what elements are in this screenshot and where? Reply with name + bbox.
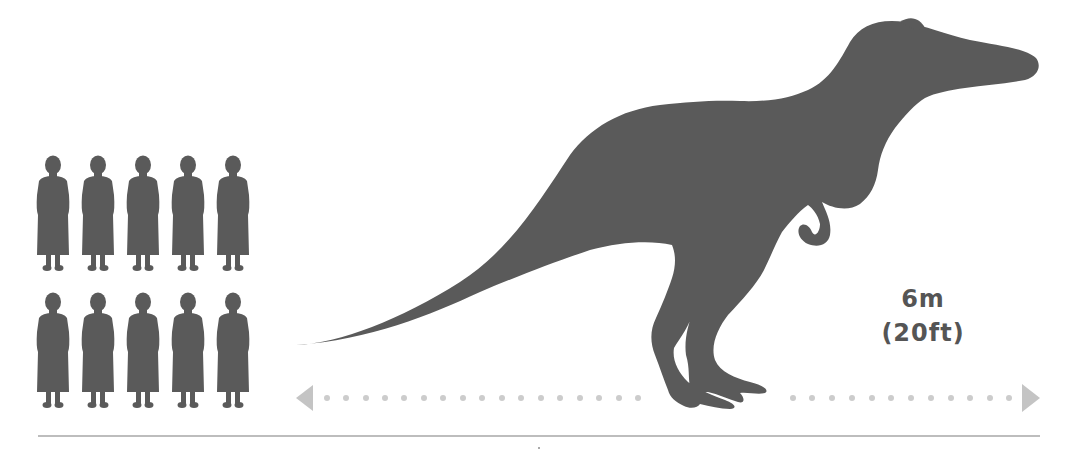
length-label: 6m (20ft): [868, 282, 978, 350]
length-imperial: (20ft): [868, 316, 978, 350]
size-comparison-figure: 6m (20ft): [0, 0, 1089, 451]
dotted-line-right: [790, 395, 1012, 401]
ground-tick-mark: [538, 447, 540, 449]
arrow-right-icon: [1022, 384, 1040, 412]
arrow-left-icon: [296, 385, 313, 411]
dotted-line-left: [324, 395, 641, 401]
ground-line: [38, 435, 1040, 437]
length-metric: 6m: [868, 282, 978, 316]
dinosaur-silhouette-icon: [0, 0, 1089, 451]
